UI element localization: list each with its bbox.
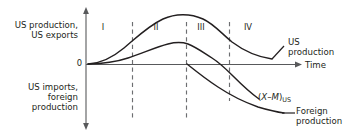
us-production-label: USproduction [288,37,334,57]
y-axis-lower-label: US imports,foreignproduction [4,82,78,112]
us-production-leader [272,46,284,59]
product-life-cycle-figure: US production,US exports US imports,fore… [0,0,346,137]
time-axis-label: Time [305,60,326,70]
y-axis-upper-label: US production,US exports [4,20,78,40]
stage-label-ii: II [146,23,166,33]
foreign-production-curve [187,64,284,113]
stage-label-iii: III [191,23,211,33]
net-exports-label-text: (X–M)US [258,92,291,102]
foreign-production-label: Foreignproduction [296,106,342,126]
origin-label: 0 [70,59,82,69]
net-exports-label: (X–M)US [258,92,291,103]
time-axis [86,62,302,68]
stage-label-iv: IV [238,23,258,33]
net-exports-curve [88,43,259,100]
stage-dividers [133,22,230,119]
vertical-axis [83,7,89,130]
stage-label-i: I [93,23,113,33]
